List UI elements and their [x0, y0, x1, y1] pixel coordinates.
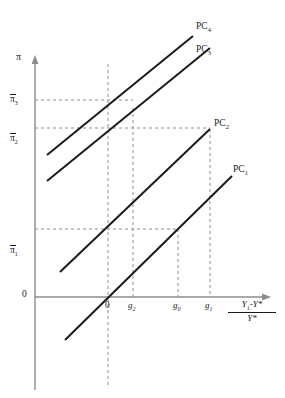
x-tick-zero: 0	[105, 301, 110, 311]
x-axis-label-denominator: Y*	[228, 313, 276, 323]
x-tick-g1: g1	[205, 301, 213, 312]
vertical-guides-group	[108, 64, 210, 386]
curve-pc3	[47, 48, 210, 181]
pi3-overbar	[10, 94, 16, 95]
curve-label-pc2: PC2	[214, 119, 229, 130]
pi1-overbar	[10, 245, 16, 246]
curve-label-pc3: PC3	[196, 45, 211, 56]
phillips-curve-figure: π π3 π2 π1 0 0 g2 g0 g1 Y1-Y* Y* PC4 PC3…	[0, 0, 285, 398]
y-axis-arrowhead	[32, 55, 39, 64]
y-axis-label: π	[16, 52, 21, 62]
pi2-overbar	[10, 133, 16, 134]
origin-label: 0	[22, 290, 27, 300]
figure-canvas	[0, 0, 285, 398]
x-tick-g2: g2	[128, 301, 136, 312]
y-tick-pi3: π3	[10, 95, 285, 106]
x-tick-g0: g0	[173, 301, 181, 312]
curve-label-pc4: PC4	[196, 22, 211, 33]
y-tick-pi1: π1	[10, 246, 285, 257]
curve-label-pc1: PC1	[233, 165, 248, 176]
x-axis-label: Y1-Y* Y*	[228, 300, 276, 323]
curve-pc1	[65, 176, 232, 340]
y-tick-pi2: π2	[10, 134, 285, 145]
curves-group	[47, 36, 232, 340]
x-axis-label-numerator: Y1-Y*	[228, 300, 276, 313]
